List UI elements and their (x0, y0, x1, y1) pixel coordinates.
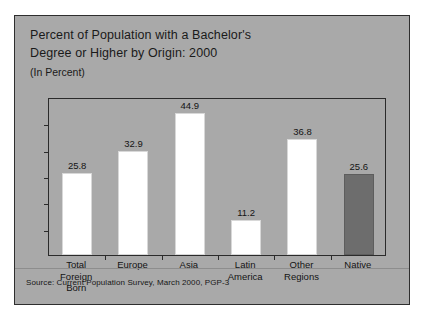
bar-value-label: 32.9 (124, 138, 143, 149)
bar-group: 25.8 (49, 99, 105, 255)
plot-area: 25.832.944.911.236.825.6 (48, 98, 386, 256)
source-note: Source: Current Population Survey, March… (26, 278, 229, 287)
chart-title-block: Percent of Population with a Bachelor's … (30, 26, 370, 81)
bar-group: 32.9 (105, 99, 161, 255)
bar-group: 36.8 (274, 99, 330, 255)
page-title-line-2: Degree or Higher by Origin: 2000 (30, 44, 370, 62)
bar[interactable] (344, 174, 374, 255)
bar-value-label: 44.9 (181, 100, 200, 111)
source-divider (15, 268, 409, 269)
figure-panel: Percent of Population with a Bachelor's … (14, 15, 410, 305)
bar[interactable] (287, 139, 317, 255)
bar-value-label: 36.8 (293, 126, 312, 137)
page-title-line-1: Percent of Population with a Bachelor's (30, 26, 370, 44)
bar-value-label: 25.6 (350, 161, 369, 172)
bar-value-label: 11.2 (237, 207, 255, 218)
chart-subtitle: (In Percent) (30, 64, 370, 81)
bar[interactable] (175, 113, 205, 255)
x-axis-label: TotalForeignBorn (48, 259, 104, 294)
bar-group: 25.6 (331, 99, 387, 255)
bar-value-label: 25.8 (68, 160, 87, 171)
x-axis-label: OtherRegions (273, 259, 329, 282)
bars-layer: 25.832.944.911.236.825.6 (49, 99, 385, 255)
bar-group: 44.9 (162, 99, 218, 255)
bar-group: 11.2 (218, 99, 274, 255)
bar[interactable] (62, 173, 92, 255)
bar[interactable] (231, 220, 261, 255)
bar[interactable] (118, 151, 148, 255)
